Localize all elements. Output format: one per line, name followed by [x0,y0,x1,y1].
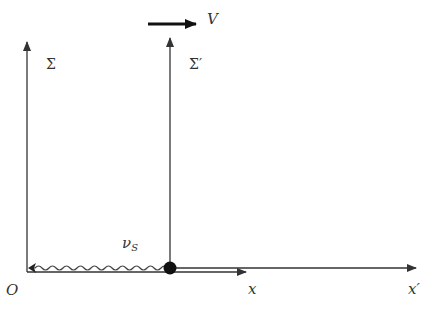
sigma-label: Σ [46,57,56,71]
origin-label: O [6,283,18,298]
x-prime-axis-label: x′ [408,282,420,297]
wave-label: νS [122,236,138,253]
reference-frames-diagram [0,0,428,311]
velocity-label: V [207,12,218,27]
x-axis-label: x [248,282,256,297]
wave-label-subscript: S [131,242,138,253]
source-dot [164,262,177,275]
wave-signal [33,266,168,270]
sigma-prime-label: Σ′ [189,57,202,71]
wave-label-symbol: ν [122,234,131,252]
